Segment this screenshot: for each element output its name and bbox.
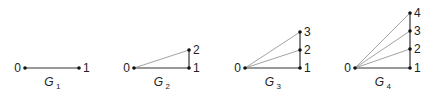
vertex-label-3: 3 <box>304 25 311 39</box>
vertex-label-2: 2 <box>414 42 421 56</box>
vertex-0 <box>353 66 357 70</box>
edge-0-3 <box>245 32 300 68</box>
vertex-label-0: 0 <box>234 61 241 75</box>
graph-sequence-diagram: 01G1012G20123G301234G4 <box>0 0 431 94</box>
vertex-label-0: 0 <box>344 61 351 75</box>
edge-0-3 <box>355 31 410 68</box>
graph-label: G <box>265 75 274 89</box>
vertex-label-4: 4 <box>414 6 421 20</box>
vertex-1 <box>298 66 302 70</box>
graph-label-subscript: 3 <box>277 82 282 91</box>
graph-3: 0123G3 <box>234 25 311 91</box>
graph-label: G <box>154 75 163 89</box>
vertex-label-0: 0 <box>14 61 21 75</box>
graph-label-subscript: 2 <box>166 82 171 91</box>
vertex-0 <box>132 66 136 70</box>
vertex-1 <box>187 66 191 70</box>
vertex-label-1: 1 <box>414 61 421 75</box>
vertex-2 <box>408 47 412 51</box>
vertex-0 <box>23 66 27 70</box>
vertex-label-1: 1 <box>193 61 200 75</box>
vertex-label-2: 2 <box>304 43 311 57</box>
graph-4: 01234G4 <box>344 6 421 91</box>
edge-0-2 <box>245 50 300 68</box>
vertex-0 <box>243 66 247 70</box>
vertex-label-2: 2 <box>193 43 200 57</box>
vertex-1 <box>77 66 81 70</box>
graph-label: G <box>44 75 53 89</box>
vertex-4 <box>408 11 412 15</box>
edge-0-2 <box>355 49 410 68</box>
vertex-2 <box>298 48 302 52</box>
graph-label-subscript: 1 <box>56 82 61 91</box>
vertex-label-1: 1 <box>304 61 311 75</box>
vertex-label-1: 1 <box>83 61 90 75</box>
vertex-2 <box>187 48 191 52</box>
vertex-1 <box>408 66 412 70</box>
edge-0-4 <box>355 13 410 68</box>
vertex-3 <box>408 29 412 33</box>
edge-0-2 <box>134 50 189 68</box>
vertex-3 <box>298 30 302 34</box>
graph-label: G <box>375 75 384 89</box>
vertex-label-3: 3 <box>414 24 421 38</box>
vertex-label-0: 0 <box>123 61 130 75</box>
graph-label-subscript: 4 <box>387 82 392 91</box>
graph-1: 01G1 <box>14 61 90 91</box>
graph-2: 012G2 <box>123 43 200 91</box>
